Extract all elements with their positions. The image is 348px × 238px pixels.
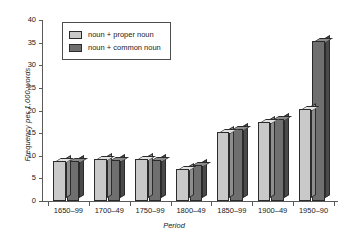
bar-front-face [176, 169, 189, 201]
bar-front-face [217, 132, 230, 201]
bar-group [217, 20, 243, 201]
y-axis-tick-label: 10 [6, 151, 36, 160]
x-axis-tick-mark [334, 202, 335, 206]
bar-front-face [94, 159, 107, 201]
y-axis-tick-label: 0 [6, 196, 36, 205]
bar-side-face [243, 123, 248, 198]
bar-side-face [284, 113, 289, 198]
x-axis-category-label: 1850–99 [211, 206, 252, 215]
bar [94, 159, 107, 201]
x-axis-title: Period [0, 221, 348, 230]
x-axis-category-label: 1650–99 [48, 206, 89, 215]
y-axis-tick-label: 15 [6, 128, 36, 137]
bar [299, 109, 312, 201]
y-axis-tick-label: 25 [6, 83, 36, 92]
bar [217, 132, 230, 201]
bar [135, 159, 148, 201]
bar [258, 122, 271, 201]
y-axis-tick-label: 35 [6, 38, 36, 47]
bar-front-face [135, 159, 148, 201]
bar [53, 161, 66, 201]
legend-swatch [69, 31, 82, 39]
bar-chart-figure: Frequency per 1,000 words 05101520253035… [0, 0, 348, 238]
legend-label: noun + common noun [88, 43, 161, 52]
legend-entry: noun + proper noun [69, 28, 161, 41]
bar-group [258, 20, 284, 201]
x-axis-category-label: 1700–49 [89, 206, 130, 215]
bar-side-face [270, 116, 275, 198]
bar-group [299, 20, 325, 201]
y-axis-ticks: 0510152025303540 [0, 0, 42, 238]
x-axis-category-label: 1800–49 [171, 206, 212, 215]
y-axis-tick-label: 30 [6, 60, 36, 69]
y-axis-line [42, 20, 43, 202]
chart-legend: noun + proper nounnoun + common noun [62, 22, 171, 60]
legend-entry: noun + common noun [69, 41, 161, 54]
y-axis-tick-label: 40 [6, 15, 36, 24]
bar-front-face [299, 109, 312, 201]
bar-group [176, 20, 202, 201]
bar [176, 169, 189, 201]
x-axis-category-label: 1900–49 [252, 206, 293, 215]
x-axis-category-label: 1750–99 [130, 206, 171, 215]
y-axis-tick-label: 20 [6, 106, 36, 115]
bar-side-face [311, 103, 316, 198]
bar-side-face [229, 126, 234, 198]
legend-swatch [69, 44, 82, 52]
bar-front-face [53, 161, 66, 201]
y-axis-tick-label: 5 [6, 173, 36, 182]
bar-side-face [325, 35, 330, 198]
x-axis-category-label: 1950–90 [293, 206, 334, 215]
legend-label: noun + proper noun [88, 30, 154, 39]
bar-front-face [258, 122, 271, 201]
